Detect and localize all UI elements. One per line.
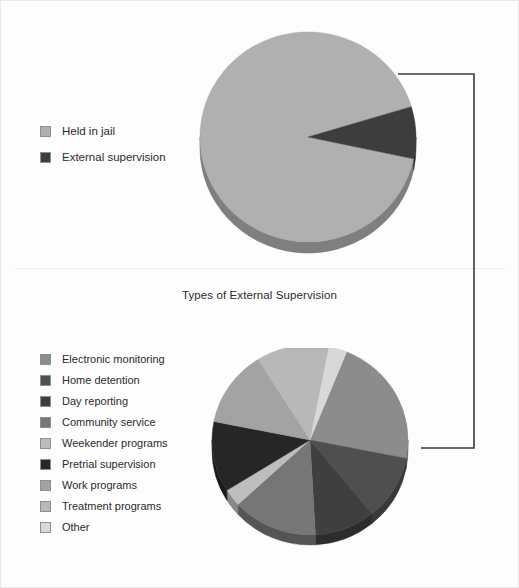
legend-supervision-swatch-icon <box>40 480 51 491</box>
legend-supervision-swatch-icon <box>40 417 51 428</box>
legend-jail-label: External supervision <box>62 152 166 163</box>
legend-supervision-label: Work programs <box>62 480 137 491</box>
legend-supervision-item[interactable]: Other <box>40 517 168 537</box>
legend-external-supervision: Electronic monitoringHome detentionDay r… <box>40 349 168 538</box>
legend-supervision-label: Home detention <box>62 375 140 386</box>
legend-jail-label: Held in jail <box>62 126 115 137</box>
chart-title-external-supervision: Types of External Supervision <box>0 289 519 301</box>
pie-chart-jail-population-svg: Held in jail: 92External supervision: 8 <box>197 27 419 259</box>
panel-jail-population: Held in jailExternal supervision Held in… <box>0 0 519 268</box>
legend-supervision-item[interactable]: Weekender programs <box>40 433 168 453</box>
legend-supervision-swatch-icon <box>40 354 51 365</box>
legend-supervision-label: Community service <box>62 417 156 428</box>
legend-supervision-item[interactable]: Home detention <box>40 370 168 390</box>
legend-jail-item[interactable]: External supervision <box>40 146 166 168</box>
legend-supervision-item[interactable]: Work programs <box>40 475 168 495</box>
legend-supervision-swatch-icon <box>40 522 51 533</box>
legend-supervision-item[interactable]: Electronic monitoring <box>40 349 168 369</box>
figure-container: Held in jailExternal supervision Held in… <box>0 0 519 588</box>
pie-chart-jail-population: Held in jail: 92External supervision: 8 <box>197 27 419 259</box>
pie-chart-external-supervision-svg: Electronic monitoring: 22Home detention:… <box>207 348 413 560</box>
legend-supervision-label: Pretrial supervision <box>62 459 156 470</box>
legend-supervision-label: Electronic monitoring <box>62 354 165 365</box>
legend-supervision-label: Other <box>62 522 90 533</box>
legend-supervision-swatch-icon <box>40 375 51 386</box>
pie-chart-external-supervision: Electronic monitoring: 22Home detention:… <box>207 348 413 560</box>
pie-top-face: Electronic monitoring: 22Home detention:… <box>212 348 408 535</box>
legend-supervision-item[interactable]: Pretrial supervision <box>40 454 168 474</box>
legend-supervision-swatch-icon <box>40 396 51 407</box>
legend-supervision-swatch-icon <box>40 438 51 449</box>
legend-jail-swatch-icon <box>40 152 51 163</box>
legend-supervision-item[interactable]: Day reporting <box>40 391 168 411</box>
legend-supervision-label: Day reporting <box>62 396 128 407</box>
legend-jail-item[interactable]: Held in jail <box>40 120 166 142</box>
legend-jail-swatch-icon <box>40 126 51 137</box>
legend-jail-population: Held in jailExternal supervision <box>40 120 166 172</box>
legend-supervision-label: Weekender programs <box>62 438 168 449</box>
legend-supervision-swatch-icon <box>40 501 51 512</box>
legend-supervision-label: Treatment programs <box>62 501 161 512</box>
legend-supervision-item[interactable]: Treatment programs <box>40 496 168 516</box>
pie-top-face: Held in jail: 92External supervision: 8 <box>200 32 416 242</box>
legend-supervision-swatch-icon <box>40 459 51 470</box>
legend-supervision-item[interactable]: Community service <box>40 412 168 432</box>
